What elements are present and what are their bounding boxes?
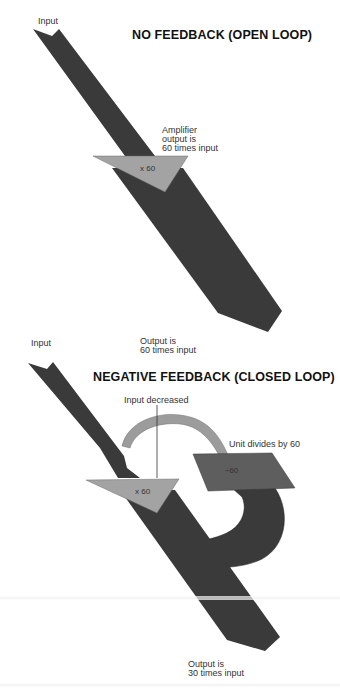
open-loop-amplifier-note-3: 60 times input [162,143,218,153]
closed-loop-input-label: Input [31,338,51,348]
closed-loop-output-line-2: 30 times input [188,668,244,678]
scan-stripe [0,596,340,600]
open-loop-amplifier-symbol: x 60 [140,164,155,173]
divider-symbol: ÷60 [225,466,238,475]
closed-loop-title: NEGATIVE FEEDBACK (CLOSED LOOP) [93,370,335,384]
open-loop-output-line-2: 60 times input [140,345,196,355]
divider-label: Unit divides by 60 [229,439,300,449]
scan-stripe [0,683,340,687]
open-loop-input-label: Input [38,16,58,26]
closed-loop-feedback-arc [122,414,228,457]
open-loop-input-band [33,29,155,156]
open-loop-title: NO FEEDBACK (OPEN LOOP) [132,28,312,42]
open-loop-output-band [112,168,282,332]
closed-loop-amplifier-symbol: x 60 [135,487,150,496]
closed-loop-divider-unit [193,453,295,491]
input-decreased-label: Input decreased [124,395,189,405]
